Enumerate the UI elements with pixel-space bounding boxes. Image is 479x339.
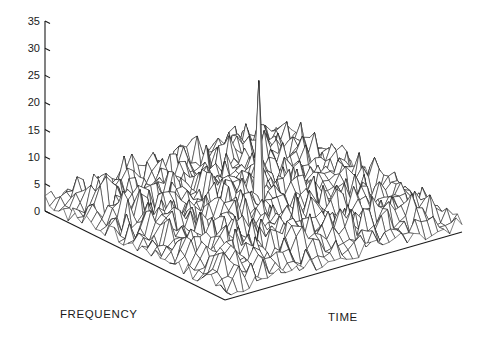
z-axis-tick-label: 5 — [34, 178, 40, 190]
z-axis-tick — [45, 48, 50, 51]
z-axis-tick-label: 10 — [28, 151, 40, 163]
z-axis-tick-label: 0 — [34, 205, 40, 217]
z-axis-tick-label: 20 — [28, 96, 40, 108]
z-axis-tick-label: 30 — [28, 42, 40, 54]
z-axis-tick — [45, 102, 50, 105]
z-axis-tick-label: 25 — [28, 69, 40, 81]
z-axis-tick — [45, 184, 50, 187]
z-axis-tick — [45, 130, 50, 133]
figure-canvas: 05101520253035 FREQUENCY TIME — [0, 0, 479, 339]
time-axis-title: TIME — [328, 311, 358, 323]
z-axis-ticks — [45, 21, 50, 214]
frequency-axis-title: FREQUENCY — [60, 308, 138, 320]
surface-mesh — [45, 81, 462, 295]
z-axis-tick-labels: 05101520253035 — [28, 15, 40, 217]
z-axis-tick — [45, 157, 50, 160]
z-axis-tick — [45, 21, 50, 24]
z-axis-tick-label: 35 — [28, 15, 40, 27]
z-axis-group: 05101520253035 — [28, 15, 50, 217]
mesh-plot-svg: 05101520253035 FREQUENCY TIME — [0, 0, 479, 339]
z-axis-tick — [45, 75, 50, 78]
z-axis-tick-label: 15 — [28, 124, 40, 136]
